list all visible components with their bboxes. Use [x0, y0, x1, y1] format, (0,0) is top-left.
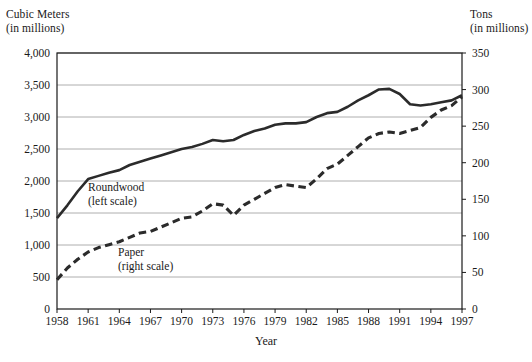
tick-label: 1997 — [442, 315, 482, 327]
tick-label: 3,500 — [2, 79, 50, 91]
series-label-roundwood: Roundwood (left scale) — [88, 181, 144, 208]
chart-container: Cubic Meters (in millions) Tons (in mill… — [0, 0, 532, 362]
left-axis-title: Cubic Meters (in millions) — [6, 8, 69, 35]
tick-label: 300 — [472, 84, 520, 96]
tick-label: 2,500 — [2, 143, 50, 155]
tick-label: 2,000 — [2, 175, 50, 187]
tick-label: 50 — [472, 266, 520, 278]
tick-label: 3,000 — [2, 111, 50, 123]
tick-label: 0 — [2, 303, 50, 315]
tick-label: 500 — [2, 271, 50, 283]
right-axis-title: Tons (in millions) — [470, 8, 528, 35]
tick-label: 350 — [472, 47, 520, 59]
tick-label: 1,500 — [2, 207, 50, 219]
tick-label: 150 — [472, 193, 520, 205]
tick-label: 0 — [472, 303, 520, 315]
tick-label: 1,000 — [2, 239, 50, 251]
tick-label: 250 — [472, 120, 520, 132]
plot-area — [0, 0, 532, 362]
tick-label: 4,000 — [2, 47, 50, 59]
tick-label: 200 — [472, 157, 520, 169]
series-label-paper: Paper (right scale) — [118, 246, 173, 273]
x-axis-label: Year — [0, 334, 532, 349]
tick-label: 100 — [472, 230, 520, 242]
